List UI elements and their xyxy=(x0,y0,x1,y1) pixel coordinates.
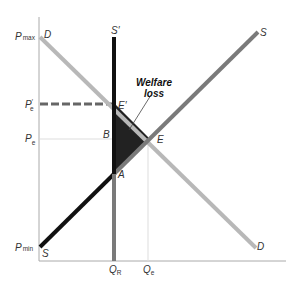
welfare-loss-label-line1: Welfare xyxy=(136,77,172,88)
point-e-label: E xyxy=(157,134,164,145)
qe-label: Qe xyxy=(143,264,155,276)
welfare-loss-label-line2: loss xyxy=(144,88,164,99)
point-e-prime-label: E′ xyxy=(118,100,128,111)
demand-label-top: D xyxy=(44,29,51,40)
pmax-label: Pmax xyxy=(15,31,36,42)
pe-label: Pe xyxy=(25,133,36,146)
point-b-label: B xyxy=(103,129,110,140)
demand-label-bottom: D xyxy=(257,241,264,252)
supply-label-top: S xyxy=(260,27,267,38)
pe-prime-label: P′e xyxy=(25,98,34,112)
welfare-loss-pointer xyxy=(129,95,151,130)
point-a-label: A xyxy=(117,169,125,180)
restricted-supply-label: S′ xyxy=(111,25,121,36)
pmin-label: Pmin xyxy=(15,242,34,253)
supply-curve-upper xyxy=(112,32,258,176)
qr-label: QR xyxy=(109,264,122,276)
welfare-loss-diagram: Pmax P′e Pe Pmin QR Qe D D S S S′ E′ E A… xyxy=(0,0,300,287)
supply-curve-lower xyxy=(40,173,115,247)
supply-label-bottom: S xyxy=(42,248,49,259)
